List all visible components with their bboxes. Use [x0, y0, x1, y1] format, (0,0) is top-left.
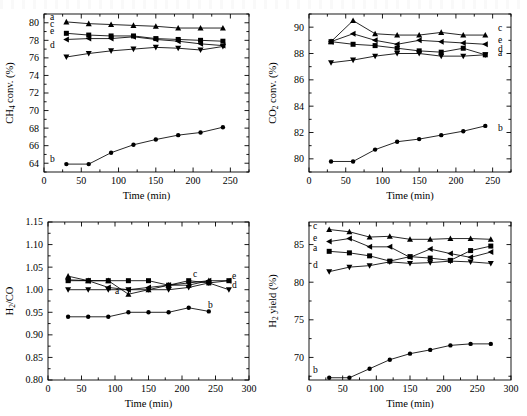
series-a: [328, 17, 488, 44]
y-tick-label: 74: [29, 70, 39, 81]
x-tick-label: 300: [504, 383, 519, 394]
x-tick-label: 250: [485, 175, 500, 186]
data-point: [63, 55, 69, 61]
series-a: [63, 19, 226, 31]
data-point: [351, 159, 355, 163]
x-tick-label: 250: [208, 383, 223, 394]
y-tick-label: 66: [29, 140, 39, 151]
data-point: [488, 261, 494, 267]
data-point: [86, 315, 90, 319]
data-point: [126, 310, 130, 314]
data-point: [395, 140, 399, 144]
data-point: [350, 31, 356, 37]
series-b: [64, 125, 225, 166]
x-tick-label: 50: [338, 383, 348, 394]
y-tick-label: 70: [29, 105, 39, 116]
series-label-b: b: [498, 123, 503, 133]
data-point: [327, 376, 331, 380]
panel-h2-co-ratio: 050100150200250300Time (min)0.800.850.90…: [0, 208, 263, 416]
series-group: [328, 17, 488, 163]
x-tick-label: 150: [403, 383, 418, 394]
series-d: [63, 44, 226, 60]
y-tick-label: 1.10: [26, 239, 44, 250]
data-point: [482, 41, 488, 47]
x-tick-label: 200: [186, 175, 201, 186]
data-point: [438, 39, 444, 45]
series-d: [328, 51, 488, 66]
series-labels: ceadb: [498, 23, 503, 133]
plot-frame: [48, 222, 249, 380]
y-tick-label: 0.90: [26, 329, 44, 340]
series-label-c: c: [193, 269, 197, 279]
x-tick-label: 200: [175, 383, 190, 394]
y-tick-label: 1.05: [26, 262, 44, 273]
data-point: [154, 137, 158, 141]
x-tick-label: 300: [242, 383, 257, 394]
y-axis-title: CO2 conv. (%): [267, 62, 280, 124]
svg-text:CH4 conv. (%): CH4 conv. (%): [4, 62, 17, 124]
series-label-b: b: [313, 365, 318, 375]
svg-text:H2/CO: H2/CO: [4, 286, 17, 315]
y-tick-label: 82: [294, 127, 304, 138]
data-point: [66, 315, 70, 319]
data-point: [438, 29, 444, 35]
x-tick-label: 50: [77, 383, 87, 394]
plot-svg: 050100150200250300Time (min)0.800.850.90…: [0, 208, 263, 416]
data-point: [221, 125, 225, 129]
x-tick-label: 50: [341, 175, 351, 186]
data-point: [468, 248, 473, 253]
data-point: [131, 143, 135, 147]
x-tick-label: 100: [108, 383, 123, 394]
data-point: [187, 306, 191, 310]
x-tick-label: 150: [141, 383, 156, 394]
data-point: [483, 124, 487, 128]
x-tick-label: 0: [307, 175, 312, 186]
data-point: [347, 250, 352, 255]
data-point: [166, 310, 170, 314]
y-axis: 808284868890: [294, 14, 511, 172]
series-group: [63, 19, 226, 167]
series-label-c: c: [498, 23, 502, 33]
data-point: [408, 351, 412, 355]
x-axis: 050100150200250300: [307, 222, 519, 394]
plot-frame: [309, 14, 511, 172]
series-label-d: d: [232, 280, 237, 290]
x-tick-label: 150: [148, 175, 163, 186]
data-point: [146, 310, 150, 314]
y-tick-label: 86: [294, 74, 304, 85]
data-point: [328, 60, 334, 66]
data-point: [329, 159, 333, 163]
data-point: [326, 226, 332, 232]
series-label-b: b: [50, 154, 55, 164]
data-point: [351, 42, 356, 47]
y-axis: 0.800.850.900.951.001.051.101.15: [26, 216, 250, 385]
data-point: [427, 246, 433, 252]
series-group: [65, 273, 232, 319]
data-point: [64, 162, 68, 166]
y-tick-label: 80: [294, 153, 304, 164]
y-tick-label: 80: [294, 277, 304, 288]
x-axis: 050100150200250: [42, 14, 250, 186]
series-group: [326, 226, 494, 380]
y-axis-title: CH4 conv. (%): [4, 62, 17, 124]
data-point: [367, 244, 373, 250]
y-tick-label: 72: [29, 87, 39, 98]
series-label-a: a: [115, 286, 120, 296]
plot-svg: 050100150200250Time (min)808284868890CO2…: [263, 0, 527, 208]
svg-text:CO2 conv. (%): CO2 conv. (%): [267, 62, 280, 124]
data-point: [63, 36, 69, 42]
data-point: [350, 17, 356, 23]
x-tick-label: 250: [223, 175, 238, 186]
plot-frame: [309, 222, 511, 380]
panel-h2-yield: 050100150200250300Time (min)70758085H2 y…: [263, 208, 527, 416]
y-tick-label: 75: [294, 314, 304, 325]
data-point: [106, 315, 110, 319]
data-point: [488, 249, 494, 255]
panel-co2-conv: 050100150200250Time (min)808284868890CO2…: [263, 0, 527, 208]
x-tick-label: 50: [76, 175, 86, 186]
data-point: [64, 31, 69, 36]
x-tick-label: 0: [46, 383, 51, 394]
data-point: [387, 244, 393, 250]
data-point: [461, 129, 465, 133]
data-point: [447, 251, 453, 257]
